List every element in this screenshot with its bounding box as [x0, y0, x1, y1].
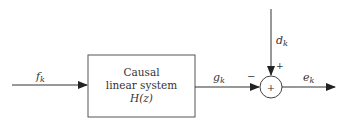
summing-junction-symbol: + — [267, 82, 275, 93]
input-signal-label: fk — [35, 70, 45, 84]
block-output-label: gk — [213, 71, 225, 85]
plus-sign-top: + — [276, 61, 284, 71]
block-label-line1: Causal — [123, 66, 160, 78]
block-diagram: fk Causal linear system H(z) gk − dk + +… — [0, 0, 348, 126]
block-label-line2: linear system — [106, 79, 177, 91]
error-output-label: ek — [303, 71, 315, 85]
disturbance-label: dk — [276, 34, 288, 48]
minus-sign: − — [247, 71, 255, 82]
block-transfer-function: H(z) — [129, 92, 153, 104]
